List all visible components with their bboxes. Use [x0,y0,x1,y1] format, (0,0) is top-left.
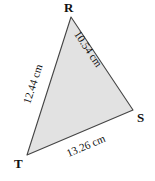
vertex-label-s: S [137,111,144,124]
vertex-label-t: T [14,157,23,170]
triangle-figure: R S T 10.54 cm 12.44 cm 13.26 cm [0,0,155,181]
vertex-label-r: R [64,1,73,14]
